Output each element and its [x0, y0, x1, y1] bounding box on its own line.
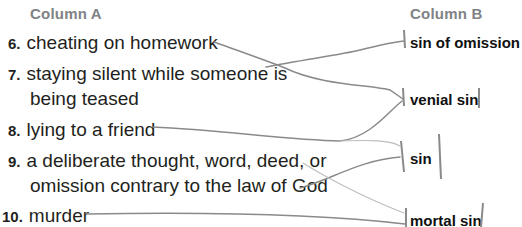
bracket-tick	[401, 141, 404, 172]
match-line-7-sin-of-omission	[266, 41, 404, 67]
match-line-10-mortal-sin	[86, 213, 405, 224]
bracket-tick	[481, 203, 483, 227]
bracket-tick	[403, 88, 404, 106]
bracket-tick	[404, 30, 405, 48]
match-line-9-sin	[300, 157, 400, 188]
pencil-match-lines	[0, 0, 522, 227]
match-line-8-branch	[340, 141, 400, 146]
match-line-6-venial-sin	[214, 42, 403, 99]
bracket-tick	[439, 134, 441, 179]
match-line-9-faint	[303, 163, 404, 213]
match-line-8-venial-sin	[153, 101, 402, 141]
